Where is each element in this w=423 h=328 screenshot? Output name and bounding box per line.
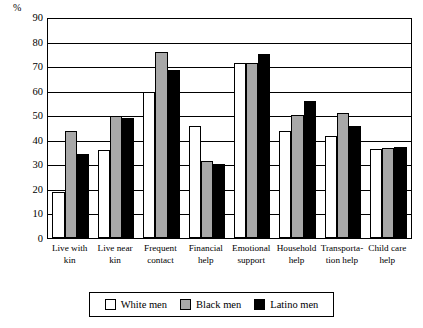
bar-chart: % 9080706050403020100 Live withkinLive n… [0,0,423,328]
x-axis-label-5: Emotionalsupport [229,243,274,266]
y-axis-tick-labels: 9080706050403020100 [0,18,43,239]
bar-8-white [370,149,382,238]
x-axis-label-4: Financialhelp [183,243,228,266]
x-axis-label-line: help [365,255,410,267]
y-axis-tick-0: 0 [3,234,43,245]
x-axis-label-line: Frequent [138,243,183,255]
legend-item-3[interactable]: Latino men [254,299,318,310]
y-axis-tick-40: 40 [3,136,43,147]
bar-1-black [77,154,89,238]
x-axis-label-3: Frequentcontact [138,243,183,266]
bar-group-1 [48,19,93,238]
bar-6-black [304,101,316,238]
bar-4-black [213,164,225,238]
bar-6-white [279,131,291,238]
bar-group-8 [366,19,411,238]
bar-3-white [143,92,155,238]
bar-8-gray [382,148,394,238]
bar-3-black [168,70,180,238]
y-axis-tick-90: 90 [3,13,43,24]
y-axis-tick-30: 30 [3,160,43,171]
white-swatch-icon [105,299,116,310]
x-axis-label-line: kin [47,255,92,267]
x-axis-label-line: Live with [47,243,92,255]
bar-group-6 [275,19,320,238]
bar-5-white [234,63,246,238]
y-axis-tick-10: 10 [3,209,43,220]
bar-group-5 [230,19,275,238]
bar-group-4 [184,19,229,238]
bar-group-2 [93,19,138,238]
x-axis-label-line: contact [138,255,183,267]
x-axis-label-6: Householdhelp [274,243,319,266]
bar-3-gray [155,52,167,238]
legend-item-2[interactable]: Black men [180,299,241,310]
x-axis-label-line: Child care [365,243,410,255]
legend-label-3: Latino men [270,299,318,310]
x-axis-label-line: Financial [183,243,228,255]
y-axis-unit-label: % [13,2,21,13]
y-axis-tick-50: 50 [3,111,43,122]
bar-7-gray [337,113,349,238]
legend-item-1[interactable]: White men [105,299,167,310]
bar-7-black [349,126,361,238]
bar-group-7 [320,19,365,238]
x-axis-label-2: Live nearkin [92,243,137,266]
y-axis-tick-60: 60 [3,87,43,98]
x-axis-label-line: Household [274,243,319,255]
bar-4-white [189,126,201,238]
legend-label-2: Black men [196,299,241,310]
bar-2-gray [110,116,122,238]
bar-2-black [122,118,134,238]
x-axis-label-line: tion help [319,255,364,267]
bar-group-3 [139,19,184,238]
y-axis-tick-70: 70 [3,62,43,73]
x-axis-label-line: Transporta- [319,243,364,255]
x-axis-label-line: Emotional [229,243,274,255]
x-axis-label-8: Child carehelp [365,243,410,266]
legend-label-1: White men [121,299,167,310]
x-axis-label-line: help [183,255,228,267]
x-axis-label-line: help [274,255,319,267]
x-axis-label-line: kin [92,255,137,267]
y-axis-tick-20: 20 [3,185,43,196]
x-axis-category-labels: Live withkinLive nearkinFrequentcontactF… [47,243,412,277]
bars-layer [48,19,411,238]
x-axis-label-line: Live near [92,243,137,255]
y-axis-tick-80: 80 [3,38,43,49]
bar-6-gray [291,115,303,238]
chart-legend: White menBlack menLatino men [89,292,334,317]
bar-7-white [325,136,337,238]
bar-5-black [258,54,270,238]
bar-1-gray [65,131,77,238]
black-swatch-icon [254,299,265,310]
x-axis-label-1: Live withkin [47,243,92,266]
gray-swatch-icon [180,299,191,310]
x-axis-label-7: Transporta-tion help [319,243,364,266]
bar-1-white [52,192,64,238]
bar-2-white [98,150,110,238]
x-axis-label-line: support [229,255,274,267]
bar-4-gray [201,161,213,238]
bar-5-gray [246,63,258,238]
bar-8-black [394,147,406,238]
